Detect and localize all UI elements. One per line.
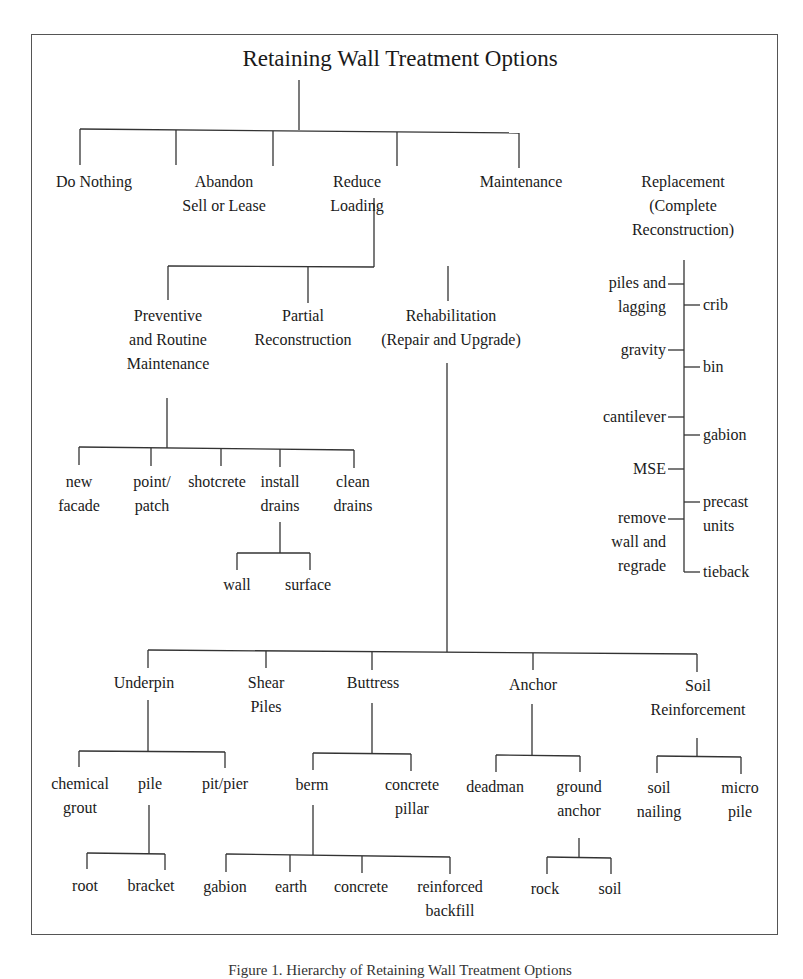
node-wall: wall [223, 573, 251, 597]
node-bin: bin [703, 355, 723, 379]
node-chemical-line2: grout [51, 796, 109, 820]
node-remove-line3: regrade [611, 554, 666, 578]
node-pile: pile [138, 772, 162, 796]
node-remove-line1: remove [611, 506, 666, 530]
node-berm: berm [296, 773, 329, 797]
node-reinforced-backfill: reinforced backfill [417, 875, 483, 923]
node-rehabilitation: Rehabilitation (Repair and Upgrade) [381, 304, 521, 352]
node-soil-nailing: soil nailing [637, 776, 681, 824]
node-chemical-line1: chemical [51, 772, 109, 796]
node-ground-anchor: ground anchor [556, 775, 601, 823]
node-gabion-berm: gabion [203, 875, 247, 899]
node-crib: crib [703, 293, 728, 317]
node-surface: surface [285, 573, 331, 597]
node-install-line2: drains [260, 494, 299, 518]
node-precast-units: precast units [703, 490, 748, 538]
node-tieback: tieback [703, 560, 749, 584]
node-do-nothing: Do Nothing [56, 170, 132, 194]
node-reduce-line1: Reduce [330, 170, 383, 194]
node-soil-nailing-line2: nailing [637, 800, 681, 824]
node-partial-line1: Partial [255, 304, 352, 328]
node-abandon-line1: Abandon [182, 170, 266, 194]
node-concrete-berm: concrete [334, 875, 388, 899]
figure-caption: Figure 1. Hierarchy of Retaining Wall Tr… [228, 962, 571, 979]
node-ground-line2: anchor [556, 799, 601, 823]
node-install-drains: install drains [260, 470, 299, 518]
node-mse: MSE [633, 457, 666, 481]
node-shear-line1: Shear [248, 671, 284, 695]
node-rock: rock [531, 877, 559, 901]
node-clean-line2: drains [333, 494, 372, 518]
node-replacement-line3: Reconstruction) [632, 218, 734, 242]
node-cantilever: cantilever [603, 405, 666, 429]
node-point-line1: point/ [133, 470, 170, 494]
node-soil-nailing-line1: soil [637, 776, 681, 800]
node-abandon: Abandon Sell or Lease [182, 170, 266, 218]
node-soil-line1: Soil [650, 674, 745, 698]
node-gabion-replacement: gabion [703, 423, 747, 447]
node-shotcrete: shotcrete [188, 470, 246, 494]
node-preventive-routine: Preventive and Routine Maintenance [127, 304, 210, 376]
node-reduce-loading: Reduce Loading [330, 170, 383, 218]
node-micro-line2: pile [721, 800, 758, 824]
node-micro-line1: micro [721, 776, 758, 800]
node-bracket: bracket [127, 874, 174, 898]
node-install-line1: install [260, 470, 299, 494]
node-preventive-line1: Preventive [127, 304, 210, 328]
node-rehab-line2: (Repair and Upgrade) [381, 328, 521, 352]
diagram-title: Retaining Wall Treatment Options [242, 46, 557, 72]
node-replacement: Replacement (Complete Reconstruction) [632, 170, 734, 242]
node-precast-line1: precast [703, 490, 748, 514]
node-reinforced-line2: backfill [417, 899, 483, 923]
node-underpin: Underpin [114, 671, 174, 695]
node-pit-pier: pit/pier [202, 772, 248, 796]
node-partial-reconstruction: Partial Reconstruction [255, 304, 352, 352]
node-gravity: gravity [621, 338, 666, 362]
node-ground-line1: ground [556, 775, 601, 799]
node-remove-wall-regrade: remove wall and regrade [611, 506, 666, 578]
node-concrete-pillar-line2: pillar [385, 797, 439, 821]
node-partial-line2: Reconstruction [255, 328, 352, 352]
node-replacement-line1: Replacement [632, 170, 734, 194]
node-new-facade-line2: facade [58, 494, 100, 518]
node-piles-line2: lagging [609, 295, 666, 319]
node-reinforced-line1: reinforced [417, 875, 483, 899]
node-clean-line1: clean [333, 470, 372, 494]
node-maintenance: Maintenance [480, 170, 563, 194]
node-rehab-line1: Rehabilitation [381, 304, 521, 328]
node-replacement-line2: (Complete [632, 194, 734, 218]
node-new-facade: new facade [58, 470, 100, 518]
node-earth: earth [275, 875, 307, 899]
node-remove-line2: wall and [611, 530, 666, 554]
node-shear-piles: Shear Piles [248, 671, 284, 719]
node-chemical-grout: chemical grout [51, 772, 109, 820]
node-soil-line2: Reinforcement [650, 698, 745, 722]
node-soil-anchor: soil [598, 877, 621, 901]
node-soil-reinforcement: Soil Reinforcement [650, 674, 745, 722]
node-preventive-line3: Maintenance [127, 352, 210, 376]
node-precast-line2: units [703, 514, 748, 538]
node-new-facade-line1: new [58, 470, 100, 494]
node-point-patch: point/ patch [133, 470, 170, 518]
node-buttress: Buttress [347, 671, 399, 695]
node-deadman: deadman [466, 775, 524, 799]
node-preventive-line2: and Routine [127, 328, 210, 352]
node-piles-line1: piles and [609, 271, 666, 295]
node-root: root [72, 874, 98, 898]
node-anchor: Anchor [509, 673, 557, 697]
node-micro-pile: micro pile [721, 776, 758, 824]
node-clean-drains: clean drains [333, 470, 372, 518]
node-piles-and-lagging: piles and lagging [609, 271, 666, 319]
node-shear-line2: Piles [248, 695, 284, 719]
node-reduce-line2: Loading [330, 194, 383, 218]
node-point-line2: patch [133, 494, 170, 518]
node-concrete-pillar-line1: concrete [385, 773, 439, 797]
node-abandon-line2: Sell or Lease [182, 194, 266, 218]
node-concrete-pillar: concrete pillar [385, 773, 439, 821]
